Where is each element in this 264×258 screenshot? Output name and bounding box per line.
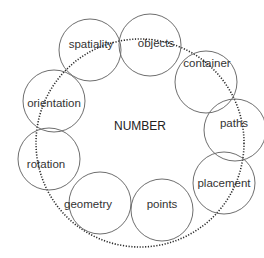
node-geometry: geometry <box>64 172 131 234</box>
node-container: container <box>175 51 237 113</box>
node-label: rotation <box>27 158 65 170</box>
node-label: orientation <box>27 97 81 109</box>
dotted-ring <box>36 39 244 247</box>
center-label: NUMBER <box>114 119 166 133</box>
node-points: points <box>131 179 193 241</box>
node-label: container <box>183 57 230 69</box>
node-label: placement <box>197 177 251 189</box>
node-orientation: orientation <box>23 70 85 132</box>
node-rotation: rotation <box>18 128 80 190</box>
node-objects: objects <box>119 14 181 76</box>
number-concept-diagram: spatiality objects container paths place… <box>0 0 264 258</box>
node-spatiality: spatiality <box>59 19 121 81</box>
node-label: geometry <box>64 198 112 210</box>
node-label: paths <box>220 117 248 129</box>
node-circle <box>204 99 264 161</box>
node-label: objects <box>138 37 175 49</box>
node-label: points <box>147 198 178 210</box>
node-paths: paths <box>204 99 264 161</box>
node-placement: placement <box>193 152 255 214</box>
node-label: spatiality <box>69 38 114 50</box>
